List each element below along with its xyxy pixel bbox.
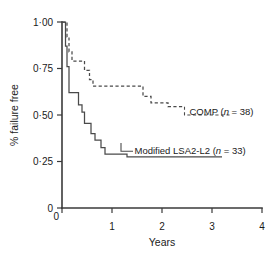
y-tick-label: 0·25	[33, 156, 53, 167]
comp-annotation: COMP (n = 38)	[190, 106, 254, 117]
x-tick-label: 1	[109, 221, 115, 232]
x-tick-label: 4	[259, 221, 265, 232]
survival-curve-chart: 00·250·500·751·00 01234 COMP (n = 38)Mod…	[0, 0, 270, 264]
series-curve-modified-lsa2-l2	[62, 22, 222, 157]
data-series-group	[62, 22, 222, 157]
x-axis-tick-labels: 01234	[53, 211, 265, 232]
lsa-annotation: Modified LSA2-L2 (n = 33)	[135, 145, 246, 156]
series-curve-comp	[62, 22, 185, 107]
y-tick-label: 0·75	[33, 63, 53, 74]
x-tick-label: 3	[209, 221, 215, 232]
y-axis-title: % failure free	[8, 84, 20, 146]
x-tick-label: 0	[53, 211, 59, 222]
y-tick-label: 1·00	[33, 17, 53, 28]
x-tick-label: 2	[159, 221, 165, 232]
x-axis-title: Years	[149, 236, 175, 248]
y-tick-label: 0·50	[33, 110, 53, 121]
series-annotations: COMP (n = 38)Modified LSA2-L2 (n = 33)	[135, 106, 254, 156]
lsa-leader-line	[121, 143, 133, 151]
figure-container: 00·250·500·751·00 01234 COMP (n = 38)Mod…	[0, 0, 270, 264]
y-axis-tick-labels: 00·250·500·751·00	[33, 17, 53, 214]
